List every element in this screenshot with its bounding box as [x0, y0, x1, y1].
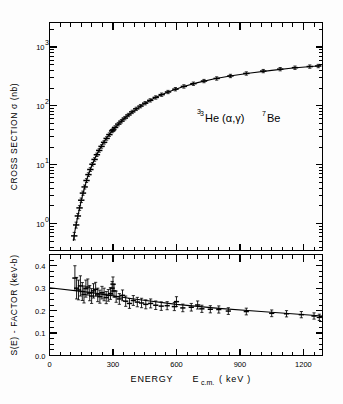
annotation-sup-7: 7 [262, 110, 266, 117]
upper-ytick-label: 10 [36, 102, 44, 111]
upper-ytick-exponent: 1 [45, 157, 49, 164]
upper-yaxis-title: CROSS SECTION σ (nb) [9, 83, 19, 190]
upper-panel-frame [50, 23, 323, 251]
lower-ytick-label: 0.3 [35, 284, 45, 293]
upper-ytick-label: 10 [36, 220, 44, 229]
xaxis-title-main: ENERGY [131, 374, 174, 384]
lower-yaxis-title: S(E) - FACTOR (keV-b) [9, 254, 19, 355]
upper-fit-curve [73, 66, 320, 241]
reaction-annotation: 3 [197, 104, 201, 116]
upper-ytick-label: 10 [36, 43, 44, 52]
annotation-be: Be [267, 112, 280, 124]
annotation-superscript-left: 3 [197, 108, 201, 115]
xaxis-title-unit: ( keV ) [219, 374, 251, 384]
xtick-label: 900 [234, 360, 247, 369]
lower-ytick-label: 0.1 [35, 329, 45, 338]
xtick-label: 300 [107, 360, 120, 369]
lower-fit-line [50, 288, 323, 316]
xaxis-title-symbol: E [193, 374, 200, 384]
xtick-label: 1200 [295, 360, 312, 369]
xtick-label: 600 [170, 360, 183, 369]
annotation-he-alpha-gamma: He (α,γ) [205, 112, 244, 124]
upper-data-points [71, 64, 321, 240]
xtick-label: 0 [47, 360, 51, 369]
upper-ytick-exponent: 2 [45, 98, 49, 105]
upper-ytick-label: 10 [36, 161, 44, 170]
lower-ytick-label: 0.4 [35, 262, 45, 271]
lower-ytick-label: 0.2 [35, 307, 45, 316]
upper-ytick-exponent: 3 [45, 39, 49, 46]
figure-container: 1001011021030.00.10.20.30.40300600900120… [0, 0, 343, 404]
lower-data-points [72, 266, 322, 321]
xaxis-title-subscript: c.m. [201, 379, 214, 386]
figure-svg: 1001011021030.00.10.20.30.40300600900120… [0, 0, 343, 404]
lower-ytick-label: 0.0 [35, 352, 45, 361]
upper-ytick-exponent: 0 [45, 216, 49, 223]
